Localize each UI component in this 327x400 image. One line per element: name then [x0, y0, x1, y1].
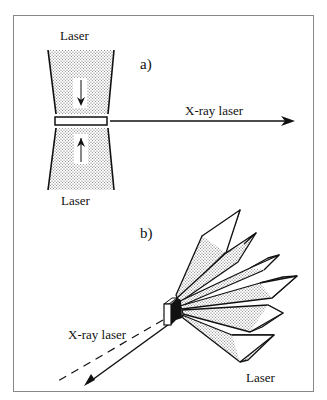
xray-label-a: X-ray laser — [185, 103, 243, 119]
target-slab — [55, 117, 107, 125]
laser-label-b: Laser — [246, 370, 275, 386]
diagram-canvas — [0, 0, 327, 400]
panel-b-label: b) — [140, 225, 153, 242]
panel-a-label: a) — [140, 56, 152, 73]
xray-label-b: X-ray laser — [68, 327, 126, 343]
laser-bottom-label: Laser — [61, 193, 90, 209]
laser-beam-fan — [176, 210, 297, 362]
target-block — [164, 298, 182, 325]
laser-top-label: Laser — [60, 28, 89, 44]
